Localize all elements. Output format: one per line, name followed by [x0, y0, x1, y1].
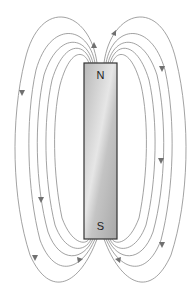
- arrow-down-icon: [19, 90, 25, 96]
- arrow-down-icon: [32, 255, 38, 261]
- field-lines-svg: [0, 0, 189, 302]
- arrow-down-icon: [38, 197, 44, 203]
- bar-magnet: [84, 63, 117, 239]
- south-pole-label: S: [84, 220, 117, 232]
- north-pole-label: N: [84, 69, 117, 81]
- arrow-down-icon: [159, 66, 165, 72]
- arrow-down-icon: [159, 242, 165, 248]
- arrow-right-icon: [77, 257, 83, 263]
